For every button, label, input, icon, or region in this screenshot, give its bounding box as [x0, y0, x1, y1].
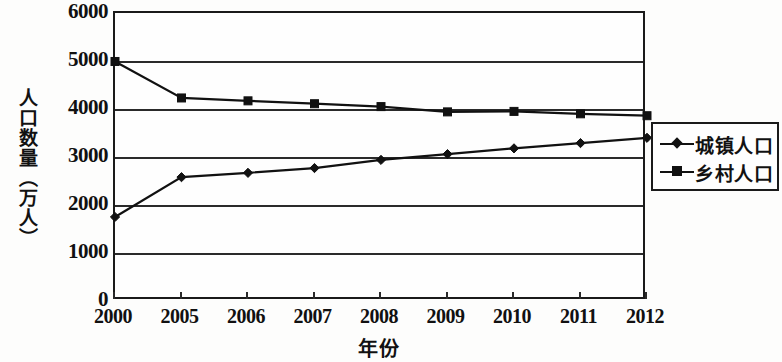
data-point-城镇人口-2008: [376, 155, 385, 164]
x-tick-label-2010: 2010: [476, 305, 548, 328]
y-tick-label-3000: 3000: [42, 145, 108, 166]
y-tick-label-5000: 5000: [42, 49, 108, 70]
x-tick-label-2005: 2005: [144, 305, 216, 328]
data-point-城镇人口-2009: [443, 150, 452, 159]
x-tick-label-2000: 2000: [77, 305, 149, 328]
data-point-城镇人口-2007: [310, 163, 319, 172]
data-point-城镇人口-2011: [576, 138, 585, 147]
plot-area: [113, 11, 645, 299]
x-tick-label-2008: 2008: [343, 305, 415, 328]
y-tick-label-6000: 6000: [42, 1, 108, 22]
x-tick-mark-2000: [113, 292, 115, 299]
x-tick-mark-2005: [180, 292, 182, 299]
legend-marker-square-icon: [659, 162, 695, 182]
legend-item-1[interactable]: 城镇人口: [659, 130, 777, 158]
data-point-乡村人口-2007: [311, 100, 319, 108]
x-axis-title: 年份: [113, 333, 645, 362]
legend-item-2[interactable]: 乡村人口: [659, 158, 777, 186]
data-point-乡村人口-2008: [377, 103, 385, 111]
x-tick-mark-2009: [446, 292, 448, 299]
data-point-城镇人口-2006: [243, 168, 252, 177]
x-tick-label-2009: 2009: [410, 305, 482, 328]
data-point-乡村人口-2009: [444, 108, 452, 116]
legend-marker-diamond-icon: [659, 134, 695, 154]
x-tick-mark-2012: [645, 292, 647, 299]
x-tick-label-2012: 2012: [609, 305, 681, 328]
x-tick-mark-2007: [313, 292, 315, 299]
x-tick-label-2011: 2011: [543, 305, 615, 328]
data-point-乡村人口-2010: [510, 107, 518, 115]
x-tick-mark-2011: [579, 292, 581, 299]
y-tick-label-1000: 1000: [42, 241, 108, 262]
data-point-乡村人口-2012: [643, 112, 651, 120]
x-tick-mark-2010: [512, 292, 514, 299]
y-axis-title: 人口数量（万人）: [6, 88, 36, 248]
x-tick-mark-2008: [379, 292, 381, 299]
y-tick-label-4000: 4000: [42, 97, 108, 118]
legend-label: 乡村人口: [695, 159, 773, 186]
x-tick-label-2007: 2007: [277, 305, 349, 328]
x-tick-label-2006: 2006: [210, 305, 282, 328]
series-line-1: [115, 138, 647, 217]
y-tick-label-2000: 2000: [42, 193, 108, 214]
data-point-乡村人口-2000: [111, 57, 119, 65]
data-point-乡村人口-2006: [244, 97, 252, 105]
data-point-城镇人口-2010: [509, 144, 518, 153]
x-tick-mark-2006: [246, 292, 248, 299]
data-point-乡村人口-2005: [178, 94, 186, 102]
series-layer: [115, 13, 647, 301]
legend-label: 城镇人口: [695, 131, 773, 158]
data-point-乡村人口-2011: [577, 110, 585, 118]
x-axis-tick-labels: 200020052006200720082009201020112012: [113, 305, 645, 333]
chart-legend: 城镇人口乡村人口: [651, 122, 779, 191]
chart-container: 人口数量（万人） 0100020003000400050006000 20002…: [0, 0, 782, 362]
data-point-城镇人口-2005: [177, 173, 186, 182]
data-point-城镇人口-2000: [110, 212, 119, 221]
